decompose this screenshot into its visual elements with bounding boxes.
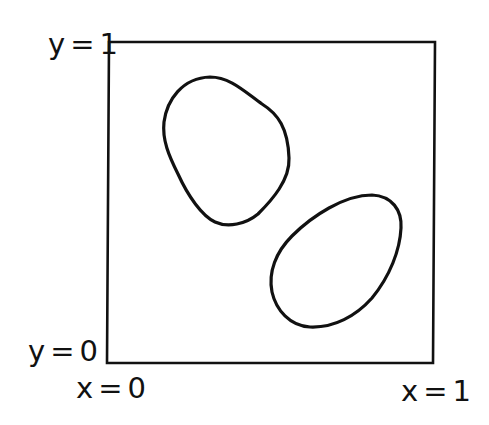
label-x0-var: x [76, 371, 94, 405]
label-x0-value: 0 [127, 371, 146, 405]
label-x1-value: 1 [452, 374, 471, 408]
label-x0-eq: = [98, 371, 123, 405]
label-y0-var: y [28, 334, 46, 368]
label-x-equals-0: x=0 [76, 374, 147, 403]
label-y0-value: 0 [79, 334, 98, 368]
label-y-equals-1: y=1 [48, 30, 119, 59]
label-y0-eq: = [50, 334, 75, 368]
closed-curve-lower-right [271, 195, 401, 327]
label-x1-var: x [401, 374, 419, 408]
label-y1-eq: = [70, 27, 95, 61]
label-y1-value: 1 [99, 27, 118, 61]
label-x-equals-1: x=1 [401, 377, 472, 406]
label-y-equals-0: y=0 [28, 337, 99, 366]
closed-curve-upper-left [164, 77, 289, 225]
label-y1-var: y [48, 27, 66, 61]
unit-square-boundary [107, 42, 435, 363]
label-x1-eq: = [423, 374, 448, 408]
